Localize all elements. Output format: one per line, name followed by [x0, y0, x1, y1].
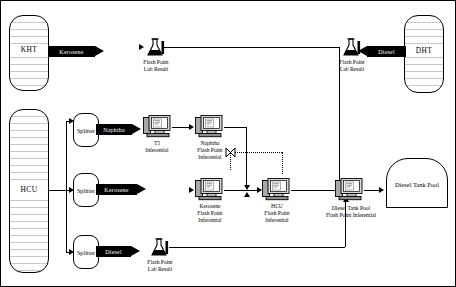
lab-result-diesel-line1: Flash Point — [125, 259, 195, 266]
stream-splitter-kerosene-head — [137, 184, 146, 194]
naphtha-out-line — [224, 127, 246, 128]
stream-splitter-diesel: Diesel — [96, 246, 140, 257]
hcu-branch-diesel-arrow — [69, 249, 74, 255]
computer-icon — [334, 177, 364, 203]
naphtha-inferential — [194, 114, 224, 140]
kerosene-inferential-line1: Kerosene — [181, 203, 239, 210]
splitter-naphtha-label: Splitter — [74, 127, 98, 134]
lab-result-diesel-line2: Lab Result — [125, 266, 195, 273]
tank-diesel-pool-label: Diesel Tank Pool — [387, 180, 447, 187]
diesel-pool-inferential — [334, 177, 364, 203]
hcu-trunk-line — [49, 190, 67, 191]
tank-kht: KHT — [9, 15, 49, 91]
lab-result-kht-caption: Flash Point Lab Result — [121, 59, 191, 73]
stream-splitter-diesel-shaft: Diesel — [96, 246, 131, 257]
kerosene-to-hcu-line — [224, 190, 259, 191]
stream-dht-diesel: Diesel — [358, 46, 406, 57]
hcu-inferential-line3: Inferential — [249, 217, 305, 224]
stream-kht-kerosene-shaft: Kerosene — [48, 46, 95, 57]
lab-result-dht — [341, 37, 363, 57]
feedback-dotted-top — [235, 152, 282, 153]
hcu-branch-naphtha-arrow — [69, 118, 74, 124]
hcu-inferential-line2: Flash Point — [249, 210, 305, 217]
lab-result-diesel — [149, 237, 171, 257]
stream-dht-diesel-shaft: Diesel — [367, 46, 406, 57]
stream-splitter-kerosene-shaft: Kerosene — [96, 184, 137, 195]
tank-dht: DHT — [404, 15, 444, 93]
lab-result-dht-line2: Lab Result — [317, 66, 387, 73]
computer-icon — [142, 114, 172, 140]
stream-kht-kerosene: Kerosene — [48, 46, 104, 57]
flask-icon — [149, 237, 171, 257]
hcu-riser-line — [66, 121, 67, 252]
kerosene-inferential-line2: Flash Point — [181, 210, 239, 217]
lab-result-dht-drop-line — [339, 47, 340, 187]
stream-splitter-naphtha-label: Naphtha — [103, 127, 125, 133]
stream-splitter-diesel-label: Diesel — [105, 249, 122, 255]
t5-inferential-line2: Inferential — [127, 147, 187, 154]
stream-kht-kerosene-label: Kerosene — [59, 49, 83, 55]
lab-result-diesel-caption: Flash Point Lab Result — [125, 259, 195, 273]
kerosene-inferential-line3: Inferential — [181, 217, 239, 224]
lab-result-kht-line-right — [164, 47, 339, 48]
kerosene-inferential — [194, 177, 224, 203]
tank-dht-label: DHT — [405, 45, 443, 56]
lab-result-dht-caption: Flash Point Lab Result — [317, 59, 387, 73]
hcu-bus-up-arrow — [244, 192, 250, 197]
splitter-kerosene-label: Splitter — [74, 187, 98, 194]
flask-icon — [341, 37, 363, 57]
tank-diesel-pool: Diesel Tank Pool — [386, 158, 448, 208]
tank-hcu: HCU — [9, 109, 49, 273]
diesel-pool-inferential-line2: Flash Point Inferential — [312, 212, 390, 219]
hcu-inferential-caption: HCU Flash Point Inferential — [249, 203, 305, 224]
t5-inferential-caption: T5 Inferential — [127, 140, 187, 154]
naphtha-inferential-line1: Naphtha — [181, 140, 239, 147]
hcu-inferential-line1: HCU — [249, 203, 305, 210]
pool-inferential-to-tank-arrow — [379, 187, 384, 193]
diesel-pool-inferential-caption: Diesel Tank Pool Flash Point Inferential — [312, 205, 390, 219]
computer-icon — [194, 177, 224, 203]
hcu-inferential — [261, 177, 291, 203]
splitter-diesel-label: Splitter — [74, 249, 98, 256]
stream-dht-diesel-label: Diesel — [378, 49, 395, 55]
stream-splitter-naphtha-shaft: Naphtha — [96, 124, 132, 135]
t5-inferential — [142, 114, 172, 140]
stream-splitter-diesel-head — [131, 246, 140, 256]
lab-result-kht-line1: Flash Point — [121, 59, 191, 66]
process-flow-diagram: KHT HCU DHT Diesel Tank Pool Splitter Sp… — [0, 0, 456, 287]
feedback-dotted-right — [282, 152, 283, 174]
tank-hcu-label: HCU — [10, 184, 48, 195]
kerosene-inferential-inlet-arrow — [189, 187, 194, 193]
stream-splitter-naphtha: Naphtha — [96, 124, 141, 135]
diesel-pool-inferential-line1: Diesel Tank Pool — [312, 205, 390, 212]
lab-result-kht-line2: Lab Result — [121, 66, 191, 73]
computer-icon — [261, 177, 291, 203]
computer-icon — [194, 114, 224, 140]
lab-result-diesel-line-right — [169, 247, 345, 248]
stream-splitter-kerosene: Kerosene — [96, 184, 146, 195]
stream-splitter-kerosene-label: Kerosene — [104, 187, 128, 193]
kerosene-inferential-caption: Kerosene Flash Point Inferential — [181, 203, 239, 224]
naphtha-out-riser — [246, 127, 247, 187]
tank-kht-label: KHT — [10, 44, 48, 55]
lab-result-kht-inlet-arrow — [139, 44, 144, 50]
stream-kht-kerosene-head — [95, 46, 104, 56]
hcu-branch-kerosene-arrow — [69, 187, 74, 193]
hcu-to-pool-line — [291, 190, 339, 191]
t5-inferential-line1: T5 — [127, 140, 187, 147]
stream-splitter-naphtha-head — [132, 124, 141, 134]
lab-result-dht-line1: Flash Point — [317, 59, 387, 66]
